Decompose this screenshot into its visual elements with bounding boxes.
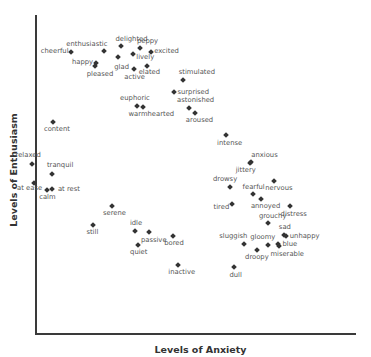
data-point-label: sad (279, 224, 291, 231)
y-axis-title: Levels of Enthusiasm (8, 113, 19, 227)
data-point-label: peppy (137, 38, 158, 45)
data-point-marker-dull (232, 264, 238, 270)
data-point-marker-astonished (186, 105, 192, 111)
data-point-marker-bored (170, 233, 176, 239)
data-point-label: fearful (243, 184, 265, 191)
data-point-marker-lively (130, 51, 136, 57)
data-point-marker-tired (229, 201, 235, 207)
x-axis-title: Levels of Anxiety (0, 344, 371, 355)
data-point-marker-enthusiastic (101, 48, 107, 54)
data-point-label: at rest (58, 186, 80, 193)
data-point-label: intense (217, 140, 242, 147)
data-point-label: elated (139, 69, 160, 76)
data-point-marker-euphoric (134, 103, 140, 109)
y-axis-line (35, 15, 37, 335)
data-point-label: happy (72, 59, 93, 66)
data-point-label: enthusiastic (66, 41, 107, 48)
data-point-label: calm (39, 194, 55, 201)
data-point-marker-jittery (247, 160, 253, 166)
data-point-marker-still (91, 222, 97, 228)
data-point-marker-peppy (137, 46, 143, 52)
data-point-label: anxious (251, 152, 277, 159)
data-point-label: nervous (265, 185, 292, 192)
data-point-label: tired (214, 204, 230, 211)
data-point-label: warmhearted (129, 111, 175, 118)
data-point-marker-pleased (92, 64, 98, 70)
data-point-label: euphoric (120, 95, 150, 102)
data-point-label: idle (130, 220, 142, 227)
data-point-label: bored (164, 240, 184, 247)
data-point-label: cheerful (41, 48, 69, 55)
data-point-label: sluggish (219, 233, 247, 240)
data-point-label: annoyed (251, 203, 280, 210)
data-point-marker-annoyed (258, 196, 264, 202)
data-point-marker-active (131, 66, 137, 72)
data-point-marker-inactive (175, 262, 181, 268)
data-point-marker-miserable (277, 243, 283, 249)
data-point-marker-warmhearted (140, 104, 146, 110)
data-point-label: drowsy (213, 176, 237, 183)
data-point-label: tranquil (47, 162, 73, 169)
data-point-marker-tranquil (49, 171, 55, 177)
data-point-label: at ease (17, 185, 42, 192)
data-point-marker-grouchy (265, 220, 271, 226)
data-point-marker-droopy (254, 248, 260, 254)
data-point-label: content (44, 126, 70, 133)
data-point-label: stimulated (179, 69, 215, 76)
data-point-label: miserable (270, 251, 304, 258)
data-point-label: grouchy (259, 213, 287, 220)
data-point-label: glad (114, 64, 129, 71)
data-point-label: inactive (168, 269, 195, 276)
data-point-label: surprised (177, 89, 209, 96)
data-point-label: astonished (177, 97, 214, 104)
data-point-marker-sluggish (241, 241, 247, 247)
data-point-label: quiet (130, 249, 147, 256)
data-point-marker-content (50, 119, 56, 125)
data-point-marker-aroused (192, 110, 198, 116)
data-point-marker-unhappy (283, 234, 289, 240)
data-point-marker-glad (115, 54, 121, 60)
data-point-marker-gloomy (265, 242, 271, 248)
data-point-label: dull (229, 272, 241, 279)
data-point-marker-fearful (250, 191, 256, 197)
data-point-marker-idle (132, 228, 138, 234)
emotion-scatter-chart: Levels of Enthusiasm Levels of Anxiety d… (0, 0, 371, 357)
data-point-marker-drowsy (227, 184, 233, 190)
x-axis-line (35, 333, 356, 335)
data-point-label: droopy (245, 254, 269, 261)
data-point-label: relaxed (16, 152, 41, 159)
data-point-label: blue (282, 241, 297, 248)
data-point-marker-distress (287, 203, 293, 209)
data-point-label: still (86, 229, 98, 236)
data-point-marker-intense (223, 132, 229, 138)
data-point-marker-delighted (118, 43, 124, 49)
data-point-label: passive (141, 237, 167, 244)
data-point-marker-relaxed (29, 161, 35, 167)
data-point-label: serene (103, 210, 126, 217)
data-point-label: excited (154, 48, 179, 55)
data-point-label: aroused (186, 117, 213, 124)
data-point-marker-nervous (271, 178, 277, 184)
data-point-marker-serene (109, 203, 115, 209)
data-point-label: pleased (87, 71, 114, 78)
data-point-marker-stimulated (180, 78, 186, 84)
data-point-label: gloomy (250, 234, 275, 241)
data-point-marker-passive (146, 229, 152, 235)
data-point-marker-cheerful (68, 49, 74, 55)
data-point-label: jittery (236, 167, 256, 174)
data-point-label: lively (136, 54, 154, 61)
data-point-marker-surprised (172, 89, 178, 95)
